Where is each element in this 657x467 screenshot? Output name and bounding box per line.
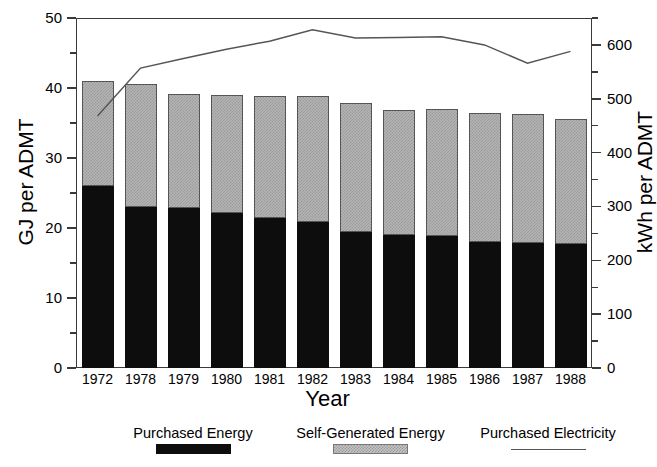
y-tick-minor-right (592, 340, 598, 341)
y-axis-title-left: GJ per ADMT (14, 97, 38, 267)
y-tick-label-right: 300 (607, 197, 653, 214)
y-tick-label-right: 400 (607, 144, 653, 161)
y-tick-label-left: 50 (16, 9, 62, 26)
y-tick-right (592, 206, 601, 208)
legend-item: Purchased Energy (98, 425, 288, 454)
y-tick-minor-right (592, 17, 598, 18)
line-series-purchased-electricity (76, 18, 592, 368)
y-tick-minor-right (592, 71, 598, 72)
y-tick-left (67, 157, 76, 159)
y-tick-label-left: 0 (16, 359, 62, 376)
legend-label: Purchased Energy (98, 425, 288, 441)
legend-swatch-black-fill (156, 444, 231, 454)
y-tick-left (67, 367, 76, 369)
y-tick-label-left: 10 (16, 289, 62, 306)
y-tick-label-right: 600 (607, 36, 653, 53)
y-tick-label-right: 0 (607, 359, 653, 376)
x-axis-title: Year (0, 386, 655, 412)
legend-swatch-line (511, 449, 586, 450)
y-tick-left (67, 17, 76, 19)
y-tick-minor-right (592, 179, 598, 180)
legend-item: Purchased Electricity (448, 425, 648, 450)
y-tick-left (67, 87, 76, 89)
y-tick-label-right: 200 (607, 251, 653, 268)
legend-item: Self-Generated Energy (268, 425, 473, 454)
y-tick-left (67, 297, 76, 299)
y-tick-minor-right (592, 233, 598, 234)
legend-swatch-gray-hatched-fill (333, 444, 408, 454)
y-tick-minor-right (592, 287, 598, 288)
y-tick-right (592, 260, 601, 262)
legend-label: Self-Generated Energy (268, 425, 473, 441)
x-tick-label: 1988 (541, 371, 601, 387)
y-tick-right (592, 98, 601, 100)
y-tick-left (67, 227, 76, 229)
y-tick-label-left: 20 (16, 219, 62, 236)
y-axis-title-right: kWh per ADMT (633, 97, 657, 267)
chart-legend: Purchased EnergySelf-Generated EnergyPur… (0, 425, 655, 467)
y-tick-minor-right (592, 125, 598, 126)
y-tick-label-right: 500 (607, 90, 653, 107)
y-tick-label-left: 30 (16, 149, 62, 166)
y-tick-right (592, 313, 601, 315)
y-tick-right (592, 367, 601, 369)
legend-label: Purchased Electricity (448, 425, 648, 441)
y-tick-right (592, 44, 601, 46)
y-tick-right (592, 152, 601, 154)
y-tick-label-left: 40 (16, 79, 62, 96)
y-tick-label-right: 100 (607, 305, 653, 322)
